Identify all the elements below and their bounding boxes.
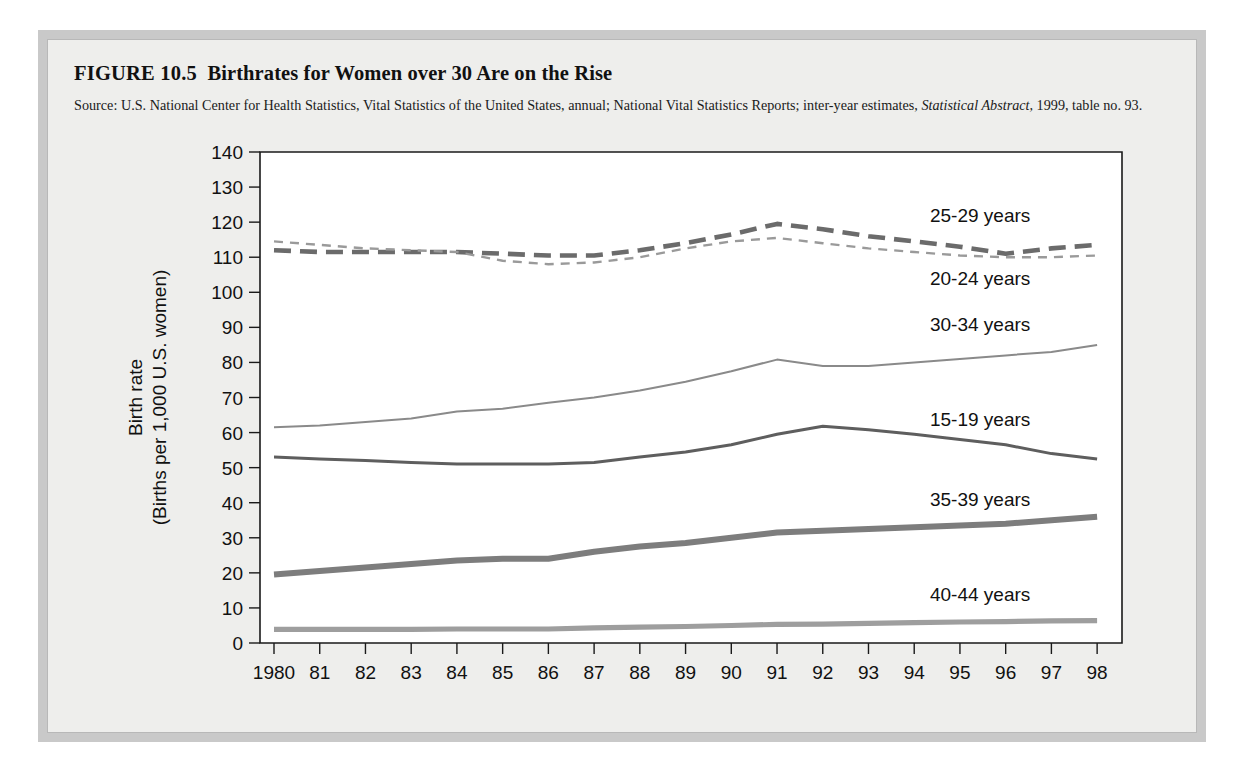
svg-text:140: 140 [211, 142, 243, 163]
source-prefix: Source: U.S. National Center for Health … [74, 97, 921, 113]
svg-text:93: 93 [858, 662, 879, 683]
svg-text:110: 110 [213, 247, 243, 268]
svg-text:0: 0 [232, 633, 243, 654]
line-chart: 0102030405060708090100110120130140 19808… [48, 136, 1196, 716]
svg-text:97: 97 [1041, 662, 1062, 683]
svg-text:20: 20 [222, 563, 243, 584]
figure-source: Source: U.S. National Center for Health … [74, 96, 1159, 114]
svg-text:70: 70 [222, 388, 243, 409]
svg-text:130: 130 [211, 177, 243, 198]
svg-text:85: 85 [492, 662, 513, 683]
svg-text:1980: 1980 [253, 662, 295, 683]
svg-text:10: 10 [222, 598, 243, 619]
svg-text:94: 94 [904, 662, 926, 683]
series-label: 20-24 years [930, 268, 1030, 289]
y-axis-title: Birth rate(Births per 1,000 U.S. women) [125, 270, 170, 526]
svg-text:82: 82 [355, 662, 376, 683]
svg-text:84: 84 [446, 662, 468, 683]
svg-text:90: 90 [222, 317, 243, 338]
svg-text:87: 87 [584, 662, 605, 683]
svg-text:89: 89 [675, 662, 696, 683]
svg-text:Birth rate: Birth rate [125, 359, 146, 436]
x-axis-ticks: 1980818283848586878889909192939495969798 [253, 643, 1108, 683]
series-label: 40-44 years [930, 584, 1030, 605]
svg-text:100: 100 [211, 282, 243, 303]
series-label: 15-19 years [930, 409, 1030, 430]
svg-text:120: 120 [211, 212, 243, 233]
figure-title: FIGURE 10.5 Birthrates for Women over 30… [74, 62, 1170, 85]
svg-text:(Births per 1,000 U.S. women): (Births per 1,000 U.S. women) [149, 270, 170, 526]
svg-text:60: 60 [222, 423, 243, 444]
source-suffix: 1999, table no. 93. [1033, 97, 1142, 113]
series-label: 35-39 years [930, 489, 1030, 510]
svg-text:80: 80 [222, 352, 243, 373]
figure-title-text: Birthrates for Women over 30 Are on the … [207, 62, 612, 84]
svg-text:90: 90 [721, 662, 742, 683]
svg-text:98: 98 [1087, 662, 1108, 683]
svg-text:86: 86 [538, 662, 559, 683]
figure-card: FIGURE 10.5 Birthrates for Women over 30… [38, 30, 1206, 742]
source-italic: Statistical Abstract, [921, 97, 1033, 113]
chart-svg: 0102030405060708090100110120130140 19808… [48, 136, 1164, 716]
svg-text:30: 30 [222, 528, 243, 549]
figure-inner: FIGURE 10.5 Birthrates for Women over 30… [47, 39, 1197, 733]
svg-text:95: 95 [949, 662, 970, 683]
svg-text:88: 88 [629, 662, 650, 683]
svg-text:96: 96 [995, 662, 1016, 683]
y-axis-ticks: 0102030405060708090100110120130140 [211, 142, 260, 654]
svg-text:92: 92 [812, 662, 833, 683]
series-label: 30-34 years [930, 314, 1030, 335]
svg-text:91: 91 [766, 662, 787, 683]
svg-text:40: 40 [222, 493, 243, 514]
figure-number: FIGURE 10.5 [74, 62, 197, 84]
series-label: 25-29 years [930, 205, 1030, 226]
svg-text:83: 83 [401, 662, 422, 683]
svg-text:81: 81 [309, 662, 330, 683]
svg-text:50: 50 [222, 458, 243, 479]
